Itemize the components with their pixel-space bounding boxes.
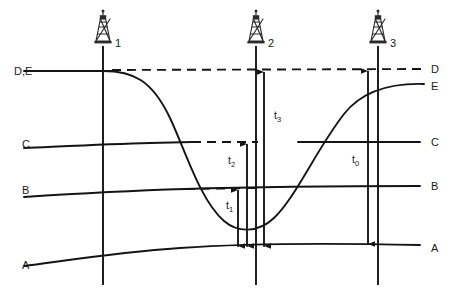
horizon-line-C-left [24, 142, 192, 148]
time-interval-t1: t1 [226, 190, 238, 247]
horizon-label-right-C: C [431, 136, 439, 148]
horizon-label-right-A: A [431, 242, 439, 254]
derrick-icon-2 [247, 10, 264, 44]
time-interval-t0: t0 [352, 71, 368, 245]
horizon-label-left-A: A [22, 259, 30, 271]
t0-label: t0 [352, 153, 359, 168]
derrick-icon-1 [94, 10, 111, 44]
horizon-label-left-DE: D,E [14, 65, 32, 77]
well-1-label: 1 [115, 37, 121, 49]
derrick-icon-3 [369, 10, 386, 44]
horizon-label-left-B: B [22, 184, 29, 196]
t1-label: t1 [226, 199, 233, 214]
time-interval-t3: t3 [264, 72, 281, 247]
horizon-label-right-B: B [431, 180, 438, 192]
horizon-line-A [24, 244, 420, 266]
t2-label: t2 [228, 154, 235, 169]
horizon-label-right-E: E [431, 80, 438, 92]
t3-label: t3 [274, 109, 281, 124]
cross-section-svg: 1 2 [0, 0, 450, 300]
well-3-label: 3 [390, 37, 396, 49]
well-2-label: 2 [268, 37, 274, 49]
well-1-group[interactable]: 1 [94, 10, 121, 286]
horizon-label-right-D: D [431, 63, 439, 75]
cross-section-figure: 1 2 [0, 0, 450, 300]
horizon-label-left-C: C [22, 138, 30, 150]
